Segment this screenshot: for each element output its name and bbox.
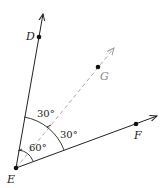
point-g — [96, 65, 101, 70]
arc-tick — [47, 125, 51, 127]
angle-label-deg: 30° — [37, 108, 55, 119]
label-g: G — [100, 70, 109, 83]
point-e — [14, 166, 19, 171]
angle-label-def: 60° — [29, 142, 47, 153]
point-f — [134, 122, 139, 127]
angle-label-gef: 30° — [60, 129, 78, 140]
point-d — [37, 35, 42, 40]
angle-diagram: D E F G 30° 30° 60° — [0, 0, 165, 188]
label-e: E — [6, 173, 15, 186]
label-f: F — [133, 129, 142, 142]
label-d: D — [25, 30, 35, 43]
